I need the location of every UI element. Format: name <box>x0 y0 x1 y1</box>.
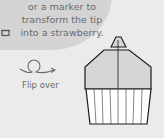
origami-tip <box>111 37 126 47</box>
origami-shape-diagram <box>0 0 164 138</box>
origami-top-section <box>85 37 151 89</box>
origami-bottom-section <box>86 89 151 124</box>
